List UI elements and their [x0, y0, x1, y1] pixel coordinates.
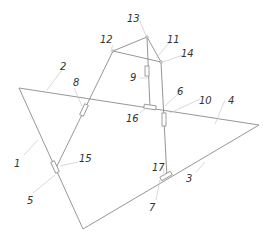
label-13: 13	[127, 13, 140, 24]
labels: 1 2 3 4 5 6 7 8 9 10 11 12 13 14 15 16 1…	[14, 13, 234, 213]
element-16	[144, 104, 156, 110]
label-6: 6	[177, 86, 183, 97]
joint-14	[160, 61, 162, 63]
joint-12	[112, 50, 114, 52]
label-2: 2	[60, 61, 66, 72]
label-5: 5	[27, 195, 33, 206]
label-9: 9	[130, 72, 136, 83]
element-15	[51, 161, 60, 174]
linkage-diagram: 1 2 3 4 5 6 7 8 9 10 11 12 13 14 15 16 1…	[0, 0, 273, 238]
element-8	[80, 104, 89, 117]
label-11: 11	[167, 34, 180, 45]
leader-lines	[24, 21, 225, 200]
base-triangle	[19, 88, 259, 229]
label-8: 8	[73, 77, 79, 88]
element-9	[145, 66, 149, 76]
label-12: 12	[100, 34, 113, 45]
label-10: 10	[199, 95, 212, 106]
label-14: 14	[181, 48, 194, 59]
element-10	[162, 113, 166, 126]
label-16: 16	[126, 113, 139, 124]
label-4: 4	[228, 95, 234, 106]
label-1: 1	[14, 158, 20, 169]
label-3: 3	[186, 173, 192, 184]
joints	[112, 36, 162, 63]
label-7: 7	[149, 202, 156, 213]
label-17: 17	[152, 162, 165, 173]
label-15: 15	[79, 153, 92, 164]
joint-13	[146, 36, 148, 38]
